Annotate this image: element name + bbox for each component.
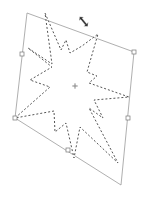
handle-right-middle[interactable] xyxy=(126,116,130,120)
transform-overlay[interactable] xyxy=(0,0,148,197)
editor-canvas[interactable] xyxy=(0,0,148,197)
handle-bottom-left[interactable] xyxy=(13,116,17,120)
handle-top-right[interactable] xyxy=(132,50,136,54)
handle-bottom-middle[interactable] xyxy=(66,148,70,152)
star-selection-marquee[interactable] xyxy=(15,13,129,163)
selection-outline-base xyxy=(15,13,129,163)
center-point-crosshair-icon[interactable] xyxy=(72,83,78,89)
handle-left-middle[interactable] xyxy=(20,52,24,56)
rotate-cursor-icon xyxy=(77,15,90,29)
